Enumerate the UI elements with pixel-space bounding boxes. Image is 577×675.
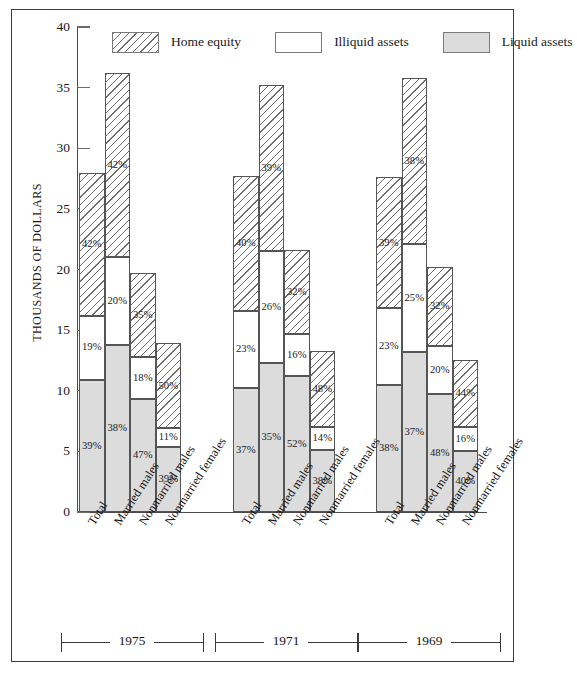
bar-segment[interactable]: 40%: [233, 176, 259, 311]
segment-percent-label: 39%: [81, 441, 102, 452]
bar-segment[interactable]: 38%: [105, 345, 131, 512]
year-rule-cap: [215, 633, 216, 652]
year-rule-right: [154, 642, 203, 643]
chart-legend: Home equityIlliquid assetsLiquid assets: [112, 30, 577, 54]
y-tick-label: 35: [44, 81, 70, 95]
y-tick-label: 30: [44, 141, 70, 155]
segment-percent-label: 35%: [132, 310, 153, 321]
year-rule-cap: [358, 633, 359, 652]
year-label: 1969: [403, 634, 455, 647]
bar-segment[interactable]: 16%: [284, 334, 310, 376]
bar-segment[interactable]: 32%: [427, 267, 453, 346]
bar-segment[interactable]: 37%: [233, 388, 259, 512]
year-rule-cap: [500, 633, 501, 652]
year-label: 1975: [106, 634, 158, 647]
legend-label: Home equity: [171, 34, 241, 50]
segment-percent-label: 20%: [429, 365, 450, 376]
bar-segment[interactable]: 44%: [453, 360, 479, 427]
segment-percent-label: 50%: [158, 381, 179, 392]
segment-percent-label: 35%: [261, 432, 282, 443]
year-rule-right: [308, 642, 357, 643]
stacked-bar[interactable]: 39%19%42%: [79, 173, 105, 513]
bar-segment[interactable]: 39%: [376, 177, 402, 308]
stacked-bar[interactable]: 38%20%42%: [105, 73, 131, 512]
bar-segment[interactable]: 39%: [259, 85, 285, 251]
segment-percent-label: 38%: [107, 423, 128, 434]
bar-segment[interactable]: 19%: [79, 316, 105, 380]
y-tick-label: 40: [44, 20, 70, 34]
bar-segment[interactable]: 37%: [402, 352, 428, 512]
segment-percent-label: 48%: [312, 384, 333, 395]
bar-segment[interactable]: 38%: [402, 78, 428, 244]
segment-percent-label: 16%: [455, 434, 476, 445]
segment-percent-label: 37%: [404, 427, 425, 438]
legend-item[interactable]: Illiquid assets: [275, 32, 443, 53]
segment-percent-label: 38%: [404, 156, 425, 167]
bar-segment[interactable]: 20%: [427, 346, 453, 395]
stacked-bar[interactable]: 37%23%40%: [233, 176, 259, 512]
bar-segment[interactable]: 18%: [130, 357, 156, 399]
segment-percent-label: 23%: [378, 341, 399, 352]
legend-swatch-gray: [443, 32, 490, 53]
year-rule-left: [358, 642, 407, 643]
legend-label: Liquid assets: [502, 34, 573, 50]
bar-segment[interactable]: 11%: [156, 428, 182, 446]
legend-item[interactable]: Liquid assets: [443, 32, 577, 53]
bar-segment[interactable]: 16%: [453, 427, 479, 451]
bar-segment[interactable]: 32%: [284, 250, 310, 334]
bar-segment[interactable]: 50%: [156, 343, 182, 428]
segment-percent-label: 39%: [378, 238, 399, 249]
bar-segment[interactable]: 25%: [402, 244, 428, 352]
segment-percent-label: 16%: [286, 350, 307, 361]
bar-segment[interactable]: 26%: [259, 251, 285, 363]
plot-area: Home equityIlliquid assetsLiquid assets …: [12, 10, 515, 663]
stacked-bar[interactable]: 37%25%38%: [402, 78, 428, 512]
year-label: 1971: [260, 634, 312, 647]
bar-segment[interactable]: 23%: [233, 311, 259, 389]
y-tick-label: 20: [44, 263, 70, 277]
y-tick-label: 15: [44, 323, 70, 337]
stacked-bar[interactable]: 35%26%39%: [259, 85, 285, 512]
segment-percent-label: 32%: [286, 287, 307, 298]
chart-frame: Home equityIlliquid assetsLiquid assets …: [11, 9, 514, 662]
bar-segment[interactable]: 14%: [310, 427, 336, 450]
legend-item[interactable]: Home equity: [112, 32, 275, 53]
segment-percent-label: 44%: [455, 388, 476, 399]
segment-percent-label: 37%: [235, 445, 256, 456]
y-tick: [77, 26, 90, 27]
segment-percent-label: 19%: [81, 342, 102, 353]
segment-percent-label: 11%: [158, 432, 179, 443]
segment-percent-label: 40%: [235, 238, 256, 249]
segment-percent-label: 25%: [404, 293, 425, 304]
segment-percent-label: 32%: [429, 301, 450, 312]
year-rule-right: [451, 642, 500, 643]
segment-percent-label: 42%: [107, 160, 128, 171]
bar-segment[interactable]: 48%: [310, 351, 336, 427]
bar-segment[interactable]: 42%: [79, 173, 105, 316]
y-tick-label: 5: [44, 444, 70, 458]
bar-segment[interactable]: 39%: [79, 380, 105, 512]
segment-percent-label: 39%: [261, 163, 282, 174]
segment-percent-label: 42%: [81, 239, 102, 250]
legend-swatch-white: [275, 32, 322, 53]
y-tick: [77, 148, 90, 149]
bar-segment[interactable]: 42%: [105, 73, 131, 257]
y-tick: [77, 87, 90, 88]
y-axis-title: THOUSANDS OF DOLLARS: [30, 168, 45, 358]
y-tick-label: 10: [44, 384, 70, 398]
bar-segment[interactable]: 35%: [130, 273, 156, 357]
year-rule-cap: [203, 633, 204, 652]
bar-segment[interactable]: 20%: [105, 257, 131, 344]
stacked-bar[interactable]: 38%23%39%: [376, 177, 402, 512]
segment-percent-label: 52%: [286, 439, 307, 450]
segment-percent-label: 48%: [429, 448, 450, 459]
legend-swatch-hatch: [112, 32, 159, 53]
year-rule-left: [215, 642, 264, 643]
segment-percent-label: 23%: [235, 344, 256, 355]
segment-percent-label: 20%: [107, 296, 128, 307]
segment-percent-label: 18%: [132, 373, 153, 384]
segment-percent-label: 14%: [312, 433, 333, 444]
bar-segment[interactable]: 23%: [376, 308, 402, 384]
year-rule-cap: [61, 633, 62, 652]
bar-segment[interactable]: 35%: [259, 363, 285, 512]
